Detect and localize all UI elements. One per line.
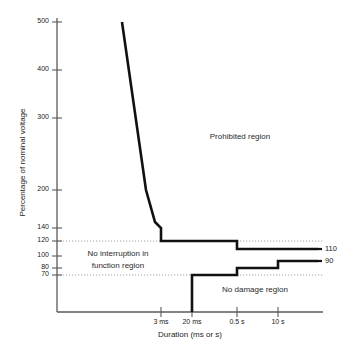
- y-tick-label-300: 300: [24, 113, 49, 120]
- x-tick-label-05s: 0.5 s: [218, 318, 256, 325]
- y-axis-title: Percentage of nominal voltage: [18, 68, 27, 258]
- right-label-110: 110: [325, 244, 337, 253]
- y-tick-label-140: 140: [24, 223, 49, 230]
- y-tick-label-100: 100: [24, 251, 49, 258]
- y-tick-label-500: 500: [24, 17, 49, 24]
- y-tick-label-200: 200: [24, 185, 49, 192]
- y-tick-label-400: 400: [24, 65, 49, 72]
- x-tick-label-10s: 10 s: [260, 318, 296, 325]
- y-tick-label-80: 80: [24, 263, 49, 270]
- chart-plot-area: [0, 0, 342, 359]
- region-label-no-interruption-line1: No interruption in: [68, 248, 168, 259]
- x-axis-title: Duration (ms or s): [120, 330, 260, 339]
- y-tick-label-70: 70: [24, 270, 49, 277]
- x-tick-label-20ms: 20 ms: [172, 318, 212, 325]
- region-label-no-interruption-line2: function region: [68, 260, 168, 271]
- voltage-tolerance-chart: 500 400 300 200 140 120 100 80 70 3 ms 2…: [0, 0, 342, 359]
- region-label-no-damage: No damage region: [200, 284, 310, 295]
- y-tick-label-120: 120: [24, 236, 49, 243]
- region-label-prohibited: Prohibited region: [185, 131, 295, 142]
- right-label-90: 90: [325, 256, 333, 265]
